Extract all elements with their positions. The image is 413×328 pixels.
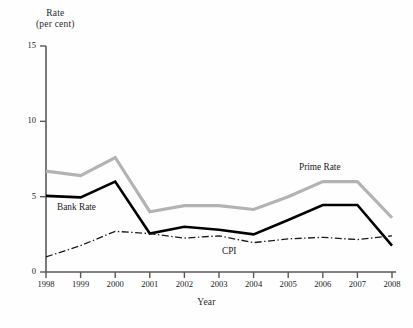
figure-container: Rate (per cent) 051015 19981999200020012…	[0, 0, 413, 328]
y-axis-ticks	[40, 46, 46, 272]
y-axis-tick-label: 15	[14, 40, 36, 50]
chart-axes	[40, 46, 396, 278]
y-axis-tick-label: 10	[14, 115, 36, 125]
series-label-prime-rate: Prime Rate	[299, 162, 341, 172]
series-label-cpi: CPI	[222, 246, 236, 256]
x-axis-title: Year	[0, 297, 413, 308]
x-axis-tick-label: 2008	[372, 279, 412, 289]
series-line-cpi	[46, 231, 392, 257]
series-label-bank-rate: Bank Rate	[57, 202, 96, 212]
chart-series-group	[46, 157, 392, 256]
y-axis-tick-label: 5	[14, 191, 36, 201]
x-axis-ticks	[46, 272, 392, 278]
y-axis-tick-label: 0	[14, 266, 36, 276]
